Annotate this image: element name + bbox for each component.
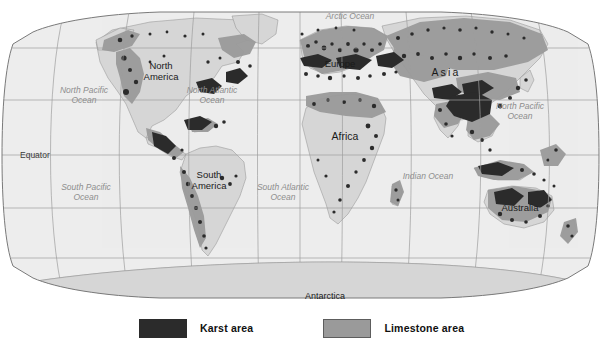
legend-item-karst: Karst area xyxy=(139,319,253,338)
legend-label-karst: Karst area xyxy=(200,322,253,334)
map-body xyxy=(0,0,601,310)
legend-item-limestone: Limestone area xyxy=(323,319,464,338)
legend-label-limestone: Limestone area xyxy=(384,322,464,334)
world-map-svg xyxy=(0,0,601,310)
legend-swatch-karst xyxy=(139,319,187,338)
legend-swatch-limestone xyxy=(323,319,371,338)
map-legend: Karst area Limestone area xyxy=(0,310,601,346)
world-map-figure: Arctic Ocean North Pacific Ocean North A… xyxy=(0,0,601,310)
